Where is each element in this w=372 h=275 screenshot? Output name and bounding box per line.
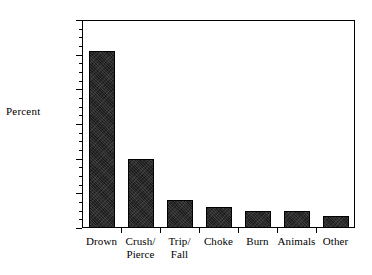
y-axis-tick-minor bbox=[79, 72, 82, 73]
x-axis-tick bbox=[316, 228, 317, 233]
plot-area-frame bbox=[82, 20, 355, 228]
bar bbox=[167, 200, 193, 228]
y-axis-tick-minor bbox=[79, 167, 82, 168]
y-axis-tick-minor bbox=[79, 133, 82, 134]
y-axis-tick-minor bbox=[79, 29, 82, 30]
y-axis-tick-major bbox=[76, 89, 82, 90]
x-axis-tick bbox=[199, 228, 200, 233]
bar bbox=[323, 216, 349, 228]
y-axis-tick-major bbox=[76, 124, 82, 125]
y-axis-tick-minor bbox=[79, 115, 82, 116]
y-axis-tick-major bbox=[76, 159, 82, 160]
y-axis-tick-minor bbox=[79, 219, 82, 220]
y-axis-tick-major bbox=[76, 55, 82, 56]
bar bbox=[245, 211, 271, 228]
y-axis: 0102030405060 bbox=[0, 0, 82, 275]
y-axis-tick-minor bbox=[79, 46, 82, 47]
y-axis-tick-minor bbox=[79, 150, 82, 151]
y-axis-tick-minor bbox=[79, 202, 82, 203]
x-axis-tick-label: Other bbox=[308, 235, 363, 248]
x-axis-tick bbox=[277, 228, 278, 233]
y-axis-tick-minor bbox=[79, 81, 82, 82]
x-axis-tick bbox=[238, 228, 239, 233]
x-axis-tick bbox=[160, 228, 161, 233]
y-axis-tick-minor bbox=[79, 185, 82, 186]
y-axis-tick-minor bbox=[79, 107, 82, 108]
y-axis-tick-minor bbox=[79, 211, 82, 212]
bar bbox=[206, 207, 232, 228]
y-axis-tick-major bbox=[76, 20, 82, 21]
bar-chart-figure: Percent 0102030405060 DrownCrush/ Pierce… bbox=[0, 0, 372, 275]
y-axis-tick-minor bbox=[79, 176, 82, 177]
y-axis-tick-major bbox=[76, 193, 82, 194]
bar bbox=[128, 159, 154, 228]
bar bbox=[284, 211, 310, 228]
y-axis-tick-major bbox=[76, 228, 82, 229]
y-axis-tick-minor bbox=[79, 37, 82, 38]
y-axis-tick-minor bbox=[79, 63, 82, 64]
y-axis-tick-minor bbox=[79, 141, 82, 142]
x-axis-tick bbox=[121, 228, 122, 233]
bar bbox=[89, 51, 115, 228]
y-axis-tick-minor bbox=[79, 98, 82, 99]
